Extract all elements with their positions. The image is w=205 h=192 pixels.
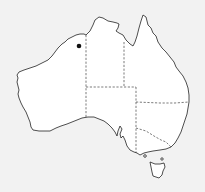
mainland-australia	[17, 15, 189, 155]
flinders-island	[161, 158, 163, 160]
map-canvas	[0, 0, 205, 192]
tasmania	[150, 162, 165, 178]
location-marker	[77, 44, 82, 49]
australia-map: Australia	[0, 0, 205, 192]
king-island	[144, 155, 147, 158]
